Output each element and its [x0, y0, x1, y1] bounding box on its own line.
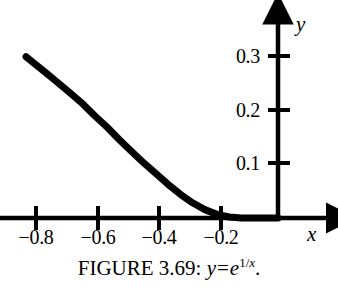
- x-tick-label: −0.4: [141, 227, 176, 247]
- x-tick-label: −0.8: [18, 227, 53, 247]
- figure-caption: FIGURE 3.69: y=e1/x.: [0, 255, 338, 281]
- caption-variable-y: y: [207, 256, 216, 280]
- caption-period: .: [255, 256, 260, 280]
- caption-exponent: 1/x: [239, 255, 255, 270]
- x-tick-label: −0.2: [203, 227, 238, 247]
- x-tick-label: −0.6: [80, 227, 115, 247]
- function-curve: [26, 57, 278, 218]
- caption-base-e: e: [230, 256, 239, 280]
- figure-container: −0.8 −0.6 −0.4 −0.2 0.1 0.2 0.3 x y FIGU…: [0, 0, 338, 294]
- y-tick-label: 0.1: [236, 153, 260, 173]
- y-tick-label: 0.3: [236, 46, 260, 66]
- y-axis-label: y: [296, 14, 305, 35]
- caption-prefix: FIGURE 3.69:: [78, 256, 202, 280]
- caption-equals: =: [216, 256, 230, 280]
- x-axis-label: x: [307, 224, 316, 245]
- plot-canvas: [0, 0, 338, 294]
- y-tick-label: 0.2: [236, 100, 260, 120]
